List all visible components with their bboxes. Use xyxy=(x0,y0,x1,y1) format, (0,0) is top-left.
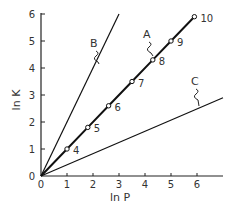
y-tick-label: 1 xyxy=(29,144,35,155)
y-tick-label: 5 xyxy=(29,36,35,47)
leader-a xyxy=(147,42,153,56)
x-tick-label: 3 xyxy=(116,179,122,190)
x-tick-label: 1 xyxy=(64,179,70,190)
data-point-label: 7 xyxy=(138,78,144,89)
data-point-label: 8 xyxy=(159,56,165,67)
data-point-marker xyxy=(130,79,134,83)
label-b: B xyxy=(90,37,98,50)
data-point-label: 5 xyxy=(94,123,100,134)
data-point-label: 6 xyxy=(115,102,121,113)
leader-c xyxy=(194,89,199,106)
y-tick-label: 2 xyxy=(29,117,35,128)
data-point-label: 9 xyxy=(177,37,183,48)
chart-canvas: 0123456 0123456 ln P ln K 45678910 B A C xyxy=(0,0,235,211)
x-tick-label: 6 xyxy=(194,179,200,190)
y-ticks: 0123456 xyxy=(29,9,45,182)
x-tick-label: 0 xyxy=(38,179,44,190)
data-point-marker xyxy=(192,15,196,19)
data-point-label: 4 xyxy=(73,145,79,156)
x-tick-label: 2 xyxy=(90,179,96,190)
x-axis-label: ln P xyxy=(110,191,131,204)
y-tick-label: 6 xyxy=(29,9,35,20)
data-point-marker xyxy=(151,58,155,62)
label-a: A xyxy=(143,28,151,41)
x-tick-label: 5 xyxy=(168,179,174,190)
series-line-b xyxy=(41,14,119,176)
label-c: C xyxy=(191,75,199,88)
data-point-marker xyxy=(86,125,90,129)
data-point-marker xyxy=(106,104,110,108)
data-point-marker xyxy=(65,147,69,151)
y-tick-label: 3 xyxy=(29,90,35,101)
x-tick-label: 4 xyxy=(142,179,148,190)
series-line-c xyxy=(41,98,223,176)
y-axis-label: ln K xyxy=(10,89,23,111)
data-point-marker xyxy=(169,39,173,43)
y-tick-label: 4 xyxy=(29,63,35,74)
data-point-label: 10 xyxy=(200,13,213,24)
y-tick-label: 0 xyxy=(29,171,35,182)
